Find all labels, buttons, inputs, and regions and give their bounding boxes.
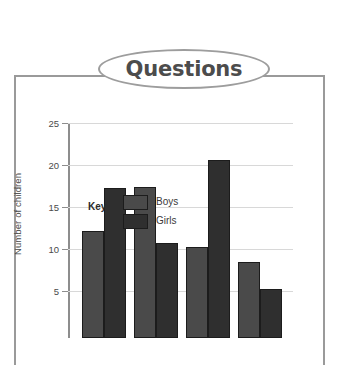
bar-chart: 252015105 Number of children Key BoysGir…: [14, 75, 325, 346]
y-axis-title: Number of children: [12, 173, 23, 255]
bar-boys-1: [82, 231, 104, 338]
legend-label-girls: Girls: [156, 215, 177, 226]
bar-girls-4: [260, 289, 282, 338]
y-axis-tick: [62, 207, 68, 208]
legend-swatch-boys: [123, 195, 148, 210]
questions-banner: Questions: [98, 49, 270, 89]
bar-girls-2: [156, 243, 178, 338]
page-title: Questions: [98, 49, 270, 89]
y-axis-tick-label: 20: [48, 160, 59, 171]
y-axis-tick: [62, 123, 68, 124]
y-axis-tick: [62, 165, 68, 166]
chart-legend: Key BoysGirls: [88, 195, 198, 237]
bar-boys-3: [186, 247, 208, 338]
y-axis-tick-label: 25: [48, 118, 59, 129]
y-axis-tick: [62, 249, 68, 250]
y-axis-tick-label: 5: [54, 286, 59, 297]
y-axis-line: [68, 123, 70, 338]
y-axis-tick: [62, 291, 68, 292]
legend-label-boys: Boys: [156, 196, 178, 207]
gridline: [68, 165, 293, 166]
y-axis-tick-label: 15: [48, 202, 59, 213]
legend-title: Key: [88, 201, 106, 212]
gridline: [68, 123, 293, 124]
bar-girls-3: [208, 160, 230, 338]
y-axis-tick-label: 10: [48, 244, 59, 255]
legend-swatch-girls: [123, 214, 148, 229]
bar-boys-4: [238, 262, 260, 338]
